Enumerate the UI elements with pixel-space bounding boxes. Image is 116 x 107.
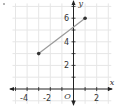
x-axis-left-arrow-icon — [9, 87, 14, 91]
y-axis-label: y — [78, 0, 84, 8]
y-tick-label: 2 — [64, 61, 69, 70]
x-tick-label: 2 — [94, 94, 99, 103]
y-axis-bottom-arrow-icon — [72, 101, 76, 106]
axes — [9, 0, 113, 106]
x-axis-right-arrow-icon — [108, 87, 113, 91]
stray-dot — [3, 3, 5, 5]
y-tick-label: 4 — [64, 38, 69, 47]
data-point — [37, 52, 41, 56]
y-tick-label: 6 — [64, 14, 69, 23]
coordinate-plane: -4 -2 2 2 4 6 O x y — [0, 0, 116, 107]
y-axis-top-arrow-icon — [72, 0, 76, 5]
x-tick-label: -2 — [43, 94, 51, 103]
tick-labels: -4 -2 2 2 4 6 O x y — [20, 0, 115, 103]
x-tick-label: -4 — [20, 94, 28, 103]
origin-label: O — [64, 92, 71, 101]
x-axis-label: x — [110, 78, 115, 87]
data-point — [83, 16, 87, 20]
